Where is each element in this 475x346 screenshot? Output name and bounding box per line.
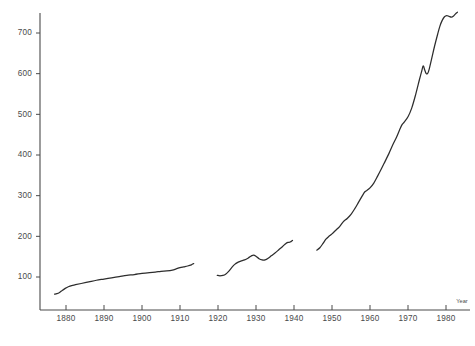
data-series-group xyxy=(55,12,458,294)
x-tick-label: 1980 xyxy=(436,314,455,323)
x-tick-label: 1890 xyxy=(94,314,113,323)
chart-canvas: 100200300400500600700 188018901900191019… xyxy=(0,0,475,346)
y-tick-label: 400 xyxy=(18,150,33,159)
x-tick-label: 1970 xyxy=(398,314,417,323)
x-tick-label: 1920 xyxy=(208,314,227,323)
data-line-segment-3 xyxy=(317,12,458,250)
line-chart: 100200300400500600700 188018901900191019… xyxy=(0,0,475,346)
x-tick-label: 1910 xyxy=(170,314,189,323)
x-axis-title: Year xyxy=(456,298,467,304)
x-tick-label: 1900 xyxy=(132,314,151,323)
x-tick-label: 1950 xyxy=(322,314,341,323)
x-tick-label: 1940 xyxy=(284,314,303,323)
data-line-segment-1 xyxy=(55,264,194,295)
y-tick-label: 200 xyxy=(18,232,33,241)
x-tick-label: 1930 xyxy=(246,314,265,323)
y-tick-label: 700 xyxy=(18,28,33,37)
y-tick-label: 100 xyxy=(18,272,33,281)
y-tick-label: 500 xyxy=(18,110,33,119)
x-tick-label: 1960 xyxy=(360,314,379,323)
x-axis: 1880189019001910192019301940195019601970… xyxy=(40,305,470,323)
x-tick-label: 1880 xyxy=(56,314,75,323)
y-tick-label: 300 xyxy=(18,191,33,200)
data-line-segment-2 xyxy=(217,240,292,275)
y-tick-label: 600 xyxy=(18,69,33,78)
y-axis: 100200300400500600700 xyxy=(18,13,40,310)
